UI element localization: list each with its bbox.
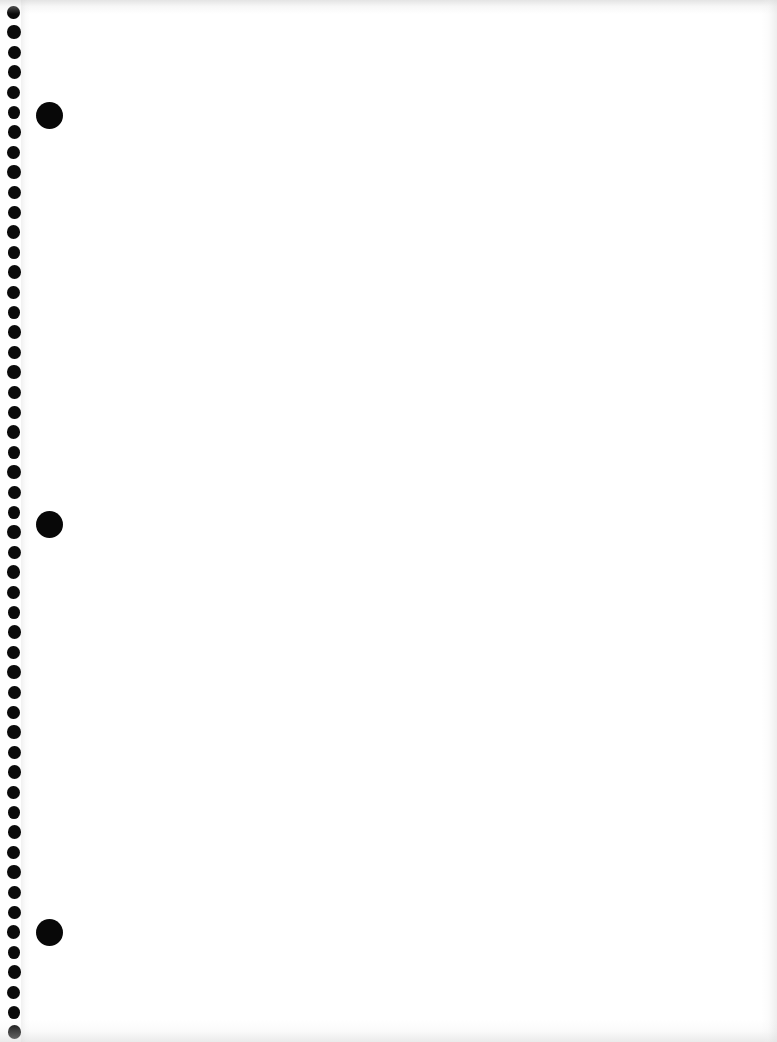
binding-hole bbox=[7, 286, 20, 300]
binding-hole bbox=[8, 806, 20, 819]
binding-hole bbox=[8, 886, 21, 900]
binding-hole bbox=[8, 965, 22, 979]
binding-hole bbox=[7, 365, 21, 379]
binding-hole bbox=[8, 386, 21, 400]
binding-hole bbox=[8, 746, 21, 759]
binding-hole bbox=[7, 865, 21, 879]
binding-hole bbox=[8, 625, 21, 639]
binding-hole-column bbox=[0, 0, 34, 1042]
binding-hole bbox=[8, 46, 21, 59]
binding-hole bbox=[8, 1006, 20, 1019]
binding-hole bbox=[8, 946, 21, 959]
binding-hole bbox=[7, 425, 20, 439]
binding-hole bbox=[8, 506, 20, 519]
binding-hole bbox=[7, 165, 21, 179]
binding-hole bbox=[7, 25, 20, 39]
binding-hole bbox=[8, 406, 20, 419]
binding-hole bbox=[7, 925, 20, 939]
binding-hole bbox=[8, 906, 20, 919]
binding-hole bbox=[7, 665, 21, 679]
binding-hole bbox=[8, 65, 22, 79]
punch-hole-bottom bbox=[36, 919, 63, 946]
binding-hole bbox=[8, 606, 20, 619]
binding-hole bbox=[7, 465, 21, 479]
binding-hole bbox=[8, 206, 20, 219]
binding-hole bbox=[7, 986, 20, 1000]
binding-hole bbox=[7, 706, 19, 719]
binding-hole bbox=[7, 86, 20, 100]
binding-hole bbox=[7, 786, 20, 800]
binding-hole bbox=[8, 546, 21, 559]
binding-hole bbox=[7, 146, 20, 159]
punch-hole-top bbox=[36, 102, 63, 129]
binding-hole bbox=[8, 825, 21, 839]
binding-hole bbox=[8, 325, 21, 339]
binding-hole bbox=[8, 306, 20, 319]
binding-hole bbox=[8, 346, 21, 359]
punch-hole-middle bbox=[36, 511, 63, 538]
binding-hole bbox=[7, 225, 20, 239]
binding-hole bbox=[7, 646, 20, 659]
binding-hole bbox=[8, 446, 21, 459]
binding-hole bbox=[8, 265, 22, 279]
binding-hole bbox=[7, 525, 20, 539]
binding-hole bbox=[7, 586, 20, 600]
binding-hole bbox=[8, 1025, 21, 1039]
scanned-notebook-page bbox=[0, 0, 777, 1042]
page-content-area bbox=[70, 8, 767, 1030]
binding-hole bbox=[7, 725, 20, 739]
binding-hole bbox=[8, 125, 21, 139]
binding-hole bbox=[8, 106, 20, 119]
binding-hole bbox=[8, 186, 21, 200]
binding-hole bbox=[8, 486, 21, 500]
binding-hole bbox=[7, 565, 21, 579]
binding-hole bbox=[7, 846, 20, 859]
binding-hole bbox=[8, 246, 21, 259]
binding-hole bbox=[7, 6, 19, 19]
binding-hole bbox=[8, 765, 22, 779]
binding-hole bbox=[8, 686, 21, 700]
